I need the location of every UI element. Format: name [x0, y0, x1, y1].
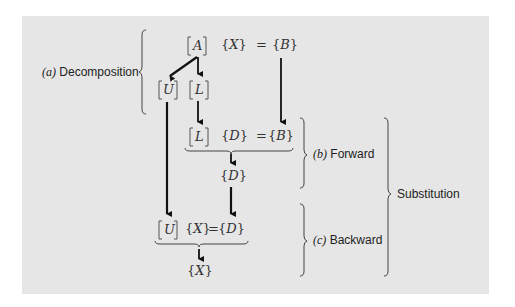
matrix-l-row3: L: [195, 129, 204, 145]
matrix-a: A: [193, 38, 202, 54]
vector-b-row1: {B}: [272, 37, 298, 53]
forward-brace: [300, 118, 307, 188]
backward-brace: [300, 204, 307, 276]
decomposition-brace: [139, 30, 146, 114]
matrix-l-row2: L: [195, 82, 204, 98]
backward-underbrace: [155, 241, 248, 247]
vector-d-row5: {D}: [218, 221, 245, 237]
vector-d-result: {D}: [220, 168, 247, 184]
matrix-u-row5: U: [164, 222, 175, 238]
forward-label: (b) Forward: [313, 147, 374, 161]
backward-label: (c) Backward: [313, 233, 382, 247]
decomposition-label: (a) Decomposition: [42, 65, 139, 79]
vector-x-result: {X}: [187, 263, 213, 279]
substitution-brace: [384, 118, 391, 276]
substitution-label: Substitution: [397, 187, 460, 201]
forward-underbrace: [185, 148, 293, 154]
arrow-a-to-u: [170, 57, 197, 76]
vector-x-row1: {X}: [221, 37, 247, 53]
vector-b-row3: {B}: [268, 128, 294, 144]
vector-d-row3: {D}: [221, 128, 248, 144]
vector-x-row5: {X}: [185, 221, 211, 237]
matrix-u-row2: U: [163, 82, 174, 98]
equals-row3: =: [256, 128, 267, 144]
equals-row1: =: [256, 37, 267, 53]
